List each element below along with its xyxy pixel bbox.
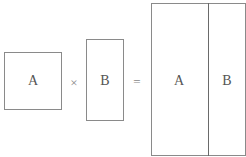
equals-operator: = xyxy=(133,75,140,88)
result-a-label: A xyxy=(174,74,184,88)
matrix-a-label: A xyxy=(28,74,38,88)
result-b-label: B xyxy=(222,74,231,88)
multiply-operator: × xyxy=(70,76,77,89)
result-divider xyxy=(208,3,209,156)
matrix-b-label: B xyxy=(100,74,109,88)
result-matrix-box xyxy=(151,3,246,156)
